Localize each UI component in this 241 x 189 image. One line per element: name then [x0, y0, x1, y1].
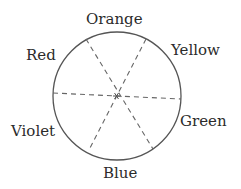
label-red: Red	[26, 46, 56, 64]
diameter-left-diagonal	[86, 39, 153, 149]
color-wheel-diagram: Orange Yellow Green Blue Violet Red	[0, 0, 241, 189]
label-yellow: Yellow	[170, 41, 220, 59]
label-orange: Orange	[86, 10, 143, 28]
label-blue: Blue	[103, 164, 137, 182]
label-green: Green	[180, 112, 227, 130]
label-violet: Violet	[10, 122, 55, 140]
